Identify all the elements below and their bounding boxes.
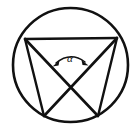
- geometry-figure: α: [0, 0, 140, 132]
- angle-label-alpha: α: [67, 52, 73, 64]
- figure-background: [0, 0, 140, 132]
- chord-top: [25, 38, 117, 39]
- geometry-canvas: α: [0, 0, 140, 132]
